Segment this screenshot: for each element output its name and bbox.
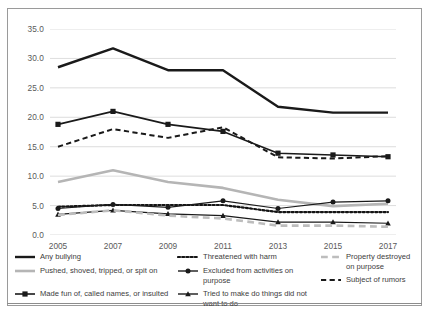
y-tick-label: 10.0 — [27, 171, 44, 181]
chart-legend: Any bullyingPushed, shoved, tripped, or … — [14, 252, 414, 300]
series-marker-5 — [386, 198, 391, 203]
legend-item-property-destroyed-on-purpose[interactable]: Property destroyed on purpose — [320, 252, 420, 271]
legend-swatch — [14, 266, 36, 276]
legend-swatch-icon — [14, 252, 36, 262]
legend-swatch-icon — [14, 266, 36, 276]
legend-item-tried-to-make-do-things-did-not-want-to-do[interactable]: Tried to make do things did not want to … — [177, 289, 322, 308]
series-marker-5 — [331, 200, 336, 205]
legend-label: Made fun of, called names, or insulted — [40, 289, 168, 299]
x-tick-label: 2017 — [379, 241, 397, 251]
legend-swatch-icon — [177, 252, 199, 262]
legend-swatch-icon — [177, 289, 199, 299]
series-marker-5 — [111, 202, 116, 207]
legend-marker — [186, 268, 191, 273]
legend-item-threatened-with-harm[interactable]: Threatened with harm — [177, 252, 322, 262]
legend-item-pushed-shoved-tripped-or-spit-on[interactable]: Pushed, shoved, tripped, or spit on — [14, 266, 174, 276]
legend-item-any-bullying[interactable]: Any bullying — [14, 252, 174, 262]
series-marker-1 — [110, 109, 115, 114]
legend-item-excluded-from-activities-on-purpose[interactable]: Excluded from activities on purpose — [177, 266, 322, 285]
bullying-trend-figure: 0.05.010.015.020.025.030.035.0 200520072… — [0, 0, 431, 316]
plot-area — [50, 29, 396, 235]
series-line-1 — [58, 111, 388, 156]
legend-label: Excluded from activities on purpose — [203, 266, 322, 285]
legend-item-subject-of-rumors[interactable]: Subject of rumors — [320, 275, 420, 285]
legend-swatch — [320, 252, 342, 262]
x-tick-label: 2009 — [159, 241, 177, 251]
legend-swatch — [14, 252, 36, 262]
y-tick-label: 20.0 — [27, 112, 44, 122]
series-marker-1 — [220, 129, 225, 134]
legend-swatch-icon — [177, 266, 199, 276]
y-tick-label: 5.0 — [32, 201, 44, 211]
legend-swatch — [177, 289, 199, 299]
footer-rule — [7, 303, 422, 304]
legend-label: Tried to make do things did not want to … — [203, 289, 322, 308]
x-tick-label: 2013 — [269, 241, 287, 251]
legend-swatch — [14, 289, 36, 299]
series-marker-5 — [56, 206, 61, 211]
series-marker-1 — [275, 151, 280, 156]
series-marker-1 — [165, 122, 170, 127]
legend-swatch — [177, 266, 199, 276]
legend-label: Threatened with harm — [203, 252, 277, 262]
x-tick-label: 2005 — [49, 241, 67, 251]
legend-swatch-icon — [320, 275, 342, 285]
x-tick-label: 2007 — [104, 241, 122, 251]
y-tick-label: 25.0 — [27, 83, 44, 93]
x-tick-label: 2011 — [214, 241, 232, 251]
series-marker-5 — [166, 205, 171, 210]
legend-swatch-icon — [320, 252, 342, 262]
y-tick-label: 0.0 — [32, 230, 44, 240]
y-tick-label: 35.0 — [27, 24, 44, 34]
legend-label: Property destroyed on purpose — [346, 252, 420, 271]
legend-swatch-icon — [14, 289, 36, 299]
legend-marker — [22, 292, 27, 297]
legend-label: Any bullying — [40, 252, 81, 262]
y-tick-label: 15.0 — [27, 142, 44, 152]
legend-item-made-fun-of-called-names-or-insulted[interactable]: Made fun of, called names, or insulted — [14, 289, 174, 299]
x-tick-label: 2015 — [324, 241, 342, 251]
series-marker-5 — [276, 206, 281, 211]
legend-swatch — [320, 275, 342, 285]
series-marker-1 — [330, 152, 335, 157]
legend-label: Pushed, shoved, tripped, or spit on — [40, 266, 157, 276]
legend-swatch — [177, 252, 199, 262]
series-marker-5 — [221, 198, 226, 203]
legend-label: Subject of rumors — [346, 275, 406, 285]
series-marker-1 — [55, 122, 60, 127]
y-tick-label: 30.0 — [27, 53, 44, 63]
line-chart-svg — [50, 29, 396, 235]
